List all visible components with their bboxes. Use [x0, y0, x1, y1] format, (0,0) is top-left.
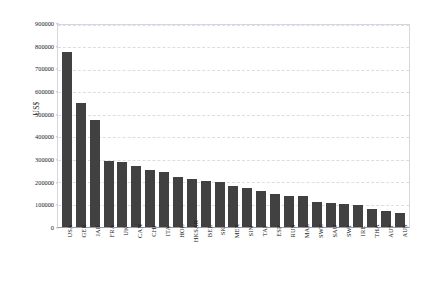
x-axis-tick-label: USA [66, 224, 73, 237]
bar-slot [282, 25, 296, 227]
x-axis-tick-slot: BEL [199, 229, 213, 285]
x-axis-tick-slot: SIN [240, 229, 254, 285]
x-axis-tick-slot: MAL [296, 229, 310, 285]
x-axis-tick-slot: ESP [268, 229, 282, 285]
y-axis-tick-label: 200000 [18, 180, 56, 186]
bar-slot [60, 25, 74, 227]
x-axis-tick-label: SAU [331, 224, 338, 237]
bar [76, 103, 86, 227]
x-axis-tick-slot: JAP [87, 229, 101, 285]
bar-series [58, 25, 409, 227]
bar-slot [324, 25, 338, 227]
bar-slot [129, 25, 143, 227]
y-axis-tick-label: 300000 [18, 157, 56, 163]
bar-slot [88, 25, 102, 227]
bar-slot [74, 25, 88, 227]
x-axis-tick-labels: USAGERJAPFRAUKCANCHIITAHOLHKSARBELSKMEXS… [57, 229, 410, 285]
x-axis-tick-label: ITA [164, 226, 171, 237]
x-axis-tick-label: RUS [289, 225, 296, 238]
bar [284, 196, 294, 227]
x-axis-tick-label: GER [80, 224, 87, 237]
x-axis-tick-slot: HKSAR [185, 229, 199, 285]
bar-slot [254, 25, 268, 227]
x-axis-tick-slot: AUT [380, 229, 394, 285]
x-axis-tick-slot: SWE [310, 229, 324, 285]
bar [256, 191, 266, 227]
y-axis-tick-label: 800000 [18, 44, 56, 50]
bar [104, 161, 114, 227]
x-axis-tick-label: TAI [261, 226, 268, 237]
x-axis-tick-label: MEX [233, 224, 240, 239]
x-axis-tick-label: JAP [94, 225, 101, 236]
bar [270, 194, 280, 227]
y-axis-tick-label: 0 [18, 225, 56, 231]
x-axis-tick-label: SIN [247, 226, 254, 237]
y-axis-tick-label: 400000 [18, 134, 56, 140]
x-axis-tick-label: BEL [206, 225, 213, 238]
y-axis-tick-label: 900000 [18, 21, 56, 27]
x-axis-tick-slot: CAN [129, 229, 143, 285]
bar [159, 172, 169, 227]
bar [353, 205, 363, 227]
x-axis-tick-label: SWE [317, 224, 324, 238]
x-axis-tick-label: AUS [401, 224, 408, 237]
bar [215, 182, 225, 227]
bar-slot [171, 25, 185, 227]
x-axis-tick-label: CAN [136, 224, 143, 238]
x-axis-tick-label: THA [373, 224, 380, 238]
y-axis-tick-labels: 9000008000007000006000005000004000003000… [18, 24, 56, 228]
bar-slot [213, 25, 227, 227]
x-axis-tick-label: IRE [359, 226, 366, 237]
x-axis-tick-slot: IRE [352, 229, 366, 285]
bar [62, 52, 72, 227]
x-axis-tick-label: SWI [345, 225, 352, 237]
y-axis-tick-label: 100000 [18, 202, 56, 208]
x-axis-tick-slot: FRA [101, 229, 115, 285]
bar-slot [157, 25, 171, 227]
bar-chart-figure: US$ 900000800000700000600000500000400000… [0, 0, 438, 288]
bar-slot [338, 25, 352, 227]
x-axis-tick-slot: SAU [324, 229, 338, 285]
x-axis-tick-label: MAL [303, 224, 310, 239]
bar [117, 162, 127, 227]
bar-slot [102, 25, 116, 227]
x-axis-tick-label: AUT [387, 224, 394, 238]
bar [90, 120, 100, 227]
bar [242, 188, 252, 227]
x-axis-tick-label: FRA [108, 225, 115, 238]
x-axis-tick-slot: CHI [143, 229, 157, 285]
x-axis-tick-slot: GER [73, 229, 87, 285]
bar-slot [199, 25, 213, 227]
bar-slot [268, 25, 282, 227]
x-axis-tick-label: SK [219, 227, 226, 235]
plot-area [57, 24, 410, 228]
x-axis-tick-slot: AUS [394, 229, 408, 285]
bar-slot [116, 25, 130, 227]
bar-slot [365, 25, 379, 227]
x-axis-tick-slot: UK [115, 229, 129, 285]
y-axis-tick-label: 500000 [18, 112, 56, 118]
x-axis-tick-slot: MEX [226, 229, 240, 285]
x-axis-tick-label: CHI [150, 225, 157, 236]
x-axis-tick-slot: ITA [157, 229, 171, 285]
y-axis-tick-label: 700000 [18, 66, 56, 72]
bar-slot [143, 25, 157, 227]
y-axis-tick-label: 600000 [18, 89, 56, 95]
bar [173, 177, 183, 228]
bar [228, 186, 238, 227]
bar-slot [227, 25, 241, 227]
bar-slot [351, 25, 365, 227]
bar-slot [379, 25, 393, 227]
bar [131, 166, 141, 227]
x-axis-tick-label: ESP [275, 225, 282, 236]
bar-slot [240, 25, 254, 227]
x-axis-tick-slot: USA [59, 229, 73, 285]
bar-slot [310, 25, 324, 227]
bar [339, 204, 349, 227]
x-axis-tick-slot: TAI [254, 229, 268, 285]
x-axis-tick-slot: SWI [338, 229, 352, 285]
x-axis-tick-label: UK [122, 226, 129, 236]
x-axis-tick-slot: SK [212, 229, 226, 285]
x-axis-tick-slot: HOL [171, 229, 185, 285]
bar [298, 196, 308, 227]
